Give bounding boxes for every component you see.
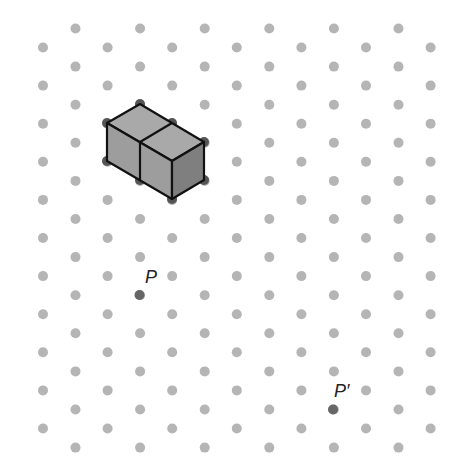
grid-dot — [329, 24, 339, 34]
grid-dot — [296, 119, 306, 129]
grid-dot — [329, 138, 339, 148]
grid-dot — [135, 214, 145, 224]
grid-dot — [426, 424, 436, 434]
grid-dot — [135, 366, 145, 376]
grid-dot — [103, 309, 113, 319]
grid-dot — [200, 443, 210, 453]
grid-dot — [38, 233, 48, 243]
grid-dot — [264, 24, 274, 34]
grid-dot — [361, 424, 371, 434]
grid-dot — [264, 176, 274, 186]
grid-dot — [200, 405, 210, 415]
grid-dot — [71, 176, 81, 186]
isometric-grid-diagram — [0, 0, 466, 467]
grid-dot — [264, 405, 274, 415]
grid-dot — [426, 347, 436, 357]
grid-dot — [167, 347, 177, 357]
grid-dot — [232, 309, 242, 319]
grid-dot — [103, 424, 113, 434]
grid-dot — [232, 347, 242, 357]
point-p — [135, 290, 145, 300]
grid-dot — [394, 443, 404, 453]
grid-dot — [264, 366, 274, 376]
grid-dot — [167, 385, 177, 395]
grid-dot — [426, 233, 436, 243]
grid-dot — [426, 81, 436, 91]
grid-dot — [38, 309, 48, 319]
grid-dot — [329, 100, 339, 110]
grid-dot — [135, 24, 145, 34]
point-p-label: P — [145, 268, 157, 286]
grid-dot — [394, 100, 404, 110]
grid-dot — [135, 328, 145, 338]
grid-dot — [135, 405, 145, 415]
grid-dot — [394, 214, 404, 224]
grid-dot — [38, 119, 48, 129]
grid-dot — [426, 195, 436, 205]
grid-dot — [426, 43, 436, 53]
grid-dot — [329, 328, 339, 338]
grid-dot — [200, 328, 210, 338]
grid-dot — [361, 385, 371, 395]
grid-dot — [167, 81, 177, 91]
grid-dot — [329, 176, 339, 186]
grid-dot — [71, 290, 81, 300]
grid-dot — [38, 385, 48, 395]
grid-dot — [232, 43, 242, 53]
grid-dot — [103, 195, 113, 205]
grid-dot — [38, 43, 48, 53]
grid-dot — [232, 119, 242, 129]
grid-dot — [167, 424, 177, 434]
grid-dot — [232, 271, 242, 281]
grid-dot — [264, 443, 274, 453]
grid-dot — [167, 309, 177, 319]
grid-dot — [71, 62, 81, 72]
grid-dot — [296, 271, 306, 281]
grid-dot — [394, 138, 404, 148]
grid-dot — [135, 443, 145, 453]
grid-dot — [426, 271, 436, 281]
grid-dot — [200, 62, 210, 72]
grid-dot — [426, 309, 436, 319]
grid-dot — [200, 290, 210, 300]
grid-dot — [200, 100, 210, 110]
grid-dot — [296, 43, 306, 53]
grid-dot — [200, 24, 210, 34]
grid-dot — [71, 252, 81, 262]
grid-dot — [264, 252, 274, 262]
grid-dot — [232, 81, 242, 91]
grid-dot — [394, 252, 404, 262]
grid-dot — [361, 157, 371, 167]
grid-dot — [394, 24, 404, 34]
grid-dot — [71, 138, 81, 148]
grid-dot — [426, 157, 436, 167]
grid-dot — [200, 214, 210, 224]
grid-dot — [264, 100, 274, 110]
grid-dot — [38, 81, 48, 91]
grid-dot — [167, 43, 177, 53]
grid-dot — [200, 252, 210, 262]
grid-dot — [361, 43, 371, 53]
grid-dot — [296, 81, 306, 91]
grid-dot — [264, 328, 274, 338]
grid-dot — [264, 62, 274, 72]
grid-dot — [135, 252, 145, 262]
grid-dot — [361, 81, 371, 91]
grid-dot — [361, 347, 371, 357]
grid-dot — [264, 214, 274, 224]
grid-dot — [103, 385, 113, 395]
grid-dot — [296, 233, 306, 243]
grid-dot — [394, 405, 404, 415]
grid-dot — [296, 424, 306, 434]
point-p-prime — [328, 405, 338, 415]
grid-dot — [426, 119, 436, 129]
grid-dot — [103, 43, 113, 53]
grid-dot — [38, 157, 48, 167]
grid-dot — [394, 328, 404, 338]
grid-dot — [361, 233, 371, 243]
grid-dot — [167, 271, 177, 281]
grid-dot — [394, 290, 404, 300]
grid-dot — [200, 366, 210, 376]
grid-dot — [296, 195, 306, 205]
grid-dot — [296, 309, 306, 319]
